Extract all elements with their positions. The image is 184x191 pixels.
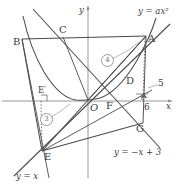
point-label-G: G [136, 124, 144, 134]
right-angle-marker-Eprime [41, 95, 47, 101]
region-marker-3: 3 [40, 113, 53, 126]
origin-label: O [90, 103, 98, 113]
y-axis-arrow [86, 6, 89, 10]
x-axis-label: x [166, 102, 171, 111]
measurement-label-6: 6 [144, 103, 150, 112]
point-label-F: F [106, 101, 113, 111]
point-label-E-prime: E′ [38, 86, 46, 95]
parabola-equation-label: y = ax² [138, 7, 169, 16]
geometry-figure: y x O y = ax² y = −x + 3 y = x A B C D E… [0, 0, 184, 191]
line-identity-equation-label: y = x [16, 172, 38, 181]
point-label-A-prime: A′ [141, 92, 149, 100]
region-marker-4: 4 [101, 54, 114, 67]
segment-AO [88, 36, 146, 100]
figure-canvas [0, 0, 184, 191]
segment-BA [22, 36, 146, 39]
leader-line-measure-5 [148, 85, 158, 88]
point-label-B: B [13, 37, 20, 47]
dashed-Eprime-to-E [41, 101, 42, 150]
point-label-C: C [59, 25, 67, 35]
point-label-A: A [148, 34, 155, 44]
line-negative-equation-label: y = −x + 3 [114, 148, 161, 157]
leader-line-region-3 [50, 104, 70, 118]
segment-CO [63, 37, 88, 100]
measurement-label-5: 5 [158, 79, 164, 88]
y-axis-label: y [79, 6, 84, 15]
point-label-D: D [126, 76, 134, 86]
point-label-E: E [44, 152, 51, 162]
